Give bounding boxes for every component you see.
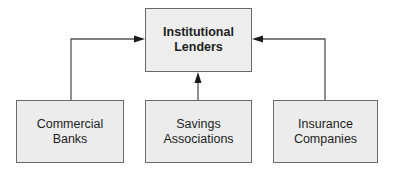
edge-commercial-banks: [71, 39, 136, 100]
edge-insurance-companies: [261, 39, 325, 100]
arrow-head-up-icon: [195, 72, 202, 83]
savings-associations-box: Savings Associations: [145, 100, 252, 163]
arrow-head-left-icon: [134, 36, 145, 43]
savings-associations-label: Savings Associations: [163, 117, 233, 147]
institutional-lenders-label: Institutional Lenders: [163, 25, 234, 55]
commercial-banks-label: Commercial Banks: [37, 117, 104, 147]
insurance-companies-label: Insurance Companies: [294, 117, 357, 147]
institutional-lenders-box: Institutional Lenders: [145, 8, 252, 72]
insurance-companies-box: Insurance Companies: [273, 100, 378, 163]
arrow-head-right-icon: [252, 36, 263, 43]
commercial-banks-box: Commercial Banks: [16, 100, 124, 163]
